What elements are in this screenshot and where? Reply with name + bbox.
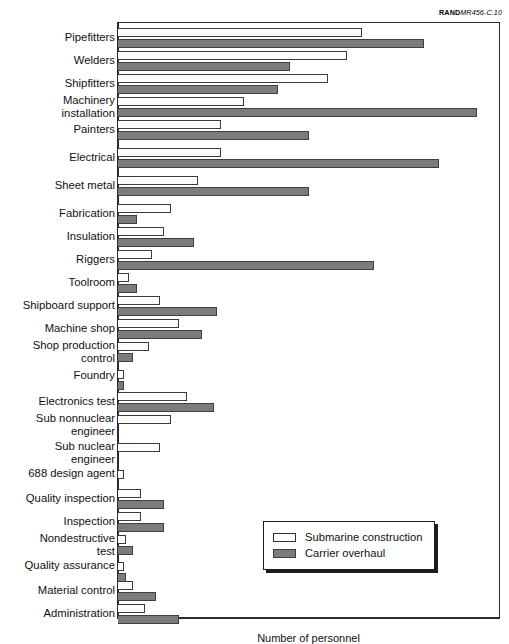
bar-submarine-construction (118, 28, 362, 37)
bar-carrier-overhaul (118, 85, 278, 94)
figure-container: RANDMR456-C.10 PipefittersWeldersShipfit… (0, 0, 509, 644)
bar-submarine-construction (118, 604, 145, 613)
category-label: Riggers (0, 253, 115, 266)
bar-submarine-construction (118, 296, 160, 305)
category-label: Fabrication (0, 207, 115, 220)
bar-submarine-construction (118, 120, 221, 129)
category-label: Administration (0, 607, 115, 620)
bar-carrier-overhaul (118, 330, 202, 339)
bar-carrier-overhaul (118, 261, 374, 270)
category-label: Insulation (0, 230, 115, 243)
bar-carrier-overhaul (118, 381, 124, 390)
bar-group (118, 74, 328, 94)
category-label: Welders (0, 54, 115, 67)
legend-item-submarine-construction: Submarine construction (273, 529, 425, 545)
bar-submarine-construction (118, 443, 160, 452)
bar-submarine-construction (118, 227, 164, 236)
category-label: Material control (0, 584, 115, 597)
category-label: Machinery installation (0, 94, 115, 119)
bar-group (118, 470, 124, 479)
category-label: Nondestructive test (0, 532, 115, 557)
category-label: Toolroom (0, 276, 115, 289)
bar-submarine-construction (118, 273, 129, 282)
bar-carrier-overhaul (118, 131, 309, 140)
bar-carrier-overhaul (118, 403, 214, 412)
bar-group (118, 176, 309, 196)
chart-legend: Submarine construction Carrier overhaul (263, 521, 435, 570)
bar-group (118, 319, 202, 339)
category-label: Painters (0, 123, 115, 136)
category-label: Electronics test (0, 395, 115, 408)
bar-group (118, 28, 424, 48)
bar-group (118, 535, 133, 555)
bar-group (118, 512, 164, 532)
category-label: Quality inspection (0, 492, 115, 505)
bar-submarine-construction (118, 319, 179, 328)
legend-swatch-carrier-overhaul (273, 549, 296, 558)
bar-carrier-overhaul (118, 39, 424, 48)
bar-submarine-construction (118, 74, 328, 83)
legend-swatch-submarine-construction (273, 533, 296, 542)
bar-carrier-overhaul (118, 159, 439, 168)
bar-group (118, 273, 137, 293)
category-label: Shop production control (0, 339, 115, 364)
legend-item-carrier-overhaul: Carrier overhaul (273, 545, 425, 561)
bar-carrier-overhaul (118, 592, 156, 601)
bar-submarine-construction (118, 51, 347, 60)
bar-carrier-overhaul (118, 546, 133, 555)
bar-group (118, 604, 179, 624)
bar-group (118, 489, 164, 509)
bar-carrier-overhaul (118, 108, 477, 117)
bar-carrier-overhaul (118, 215, 137, 224)
bar-group (118, 204, 171, 224)
bar-submarine-construction (118, 562, 124, 571)
bar-carrier-overhaul (118, 500, 164, 509)
bar-carrier-overhaul (118, 523, 164, 532)
bar-submarine-construction (118, 97, 244, 106)
bar-group (118, 562, 126, 582)
category-label: Shipboard support (0, 299, 115, 312)
bar-submarine-construction (118, 148, 221, 157)
bar-submarine-construction (118, 581, 133, 590)
bar-submarine-construction (118, 512, 141, 521)
category-label: Inspection (0, 515, 115, 528)
bar-submarine-construction (118, 489, 141, 498)
bar-carrier-overhaul (118, 307, 217, 316)
bar-submarine-construction (118, 535, 126, 544)
bar-submarine-construction (118, 470, 124, 479)
category-label: Quality assurance (0, 559, 115, 572)
legend-label-carrier-overhaul: Carrier overhaul (305, 547, 385, 559)
bar-group (118, 97, 477, 117)
bar-group (118, 250, 374, 270)
category-label: Shipfitters (0, 77, 115, 90)
bar-carrier-overhaul (118, 353, 133, 362)
bar-group (118, 392, 214, 412)
bar-group (118, 443, 160, 452)
bar-carrier-overhaul (118, 62, 290, 71)
bar-group (118, 148, 439, 168)
category-label: Pipefitters (0, 31, 115, 44)
bar-submarine-construction (118, 250, 152, 259)
category-label: Sheet metal (0, 179, 115, 192)
bar-group (118, 370, 124, 390)
bar-group (118, 120, 309, 140)
bar-submarine-construction (118, 204, 171, 213)
legend-label-submarine-construction: Submarine construction (305, 531, 423, 543)
category-label: Sub nonnuclear engineer (0, 412, 115, 437)
bar-carrier-overhaul (118, 187, 309, 196)
category-label: Machine shop (0, 322, 115, 335)
bar-group (118, 415, 171, 424)
category-label: 688 design agent (0, 467, 115, 480)
bar-submarine-construction (118, 392, 187, 401)
bar-submarine-construction (118, 342, 149, 351)
bar-submarine-construction (118, 176, 198, 185)
bar-group (118, 227, 194, 247)
x-axis-caption: Number of personnel (117, 632, 500, 644)
category-label: Electrical (0, 151, 115, 164)
bar-carrier-overhaul (118, 238, 194, 247)
bar-group (118, 296, 217, 316)
category-label: Foundry (0, 369, 115, 382)
bar-group (118, 342, 149, 362)
bar-submarine-construction (118, 370, 124, 379)
bar-carrier-overhaul (118, 615, 179, 624)
